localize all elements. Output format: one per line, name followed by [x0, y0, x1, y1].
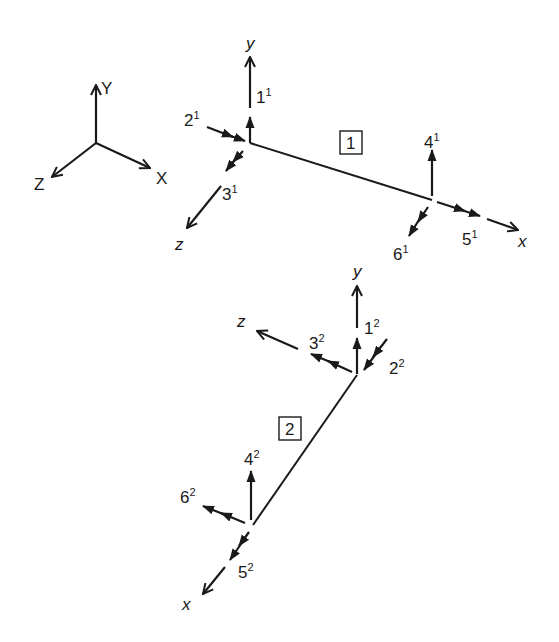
- dof-5-2-arrow-icon: [230, 532, 249, 560]
- dof-2-2-label: 22: [389, 357, 405, 378]
- dof-6-2-arrow-icon: [203, 506, 245, 523]
- global-x-axis-arrow-icon: [96, 143, 150, 168]
- dof-3-2-label: 32: [309, 332, 325, 353]
- element-1-local-z-label: z: [174, 235, 184, 254]
- element-2-local-z-label: z: [236, 312, 246, 331]
- global-y-label: Y: [101, 79, 112, 98]
- global-z-label: Z: [34, 175, 44, 194]
- element-1-local-x-label: x: [517, 232, 527, 251]
- dof-1-1-label: 11: [256, 86, 272, 107]
- dof-2-1-label: 21: [184, 109, 200, 130]
- global-z-axis-arrow-icon: [52, 143, 96, 177]
- global-x-label: X: [156, 169, 167, 188]
- dof-5-1-label: 51: [462, 228, 478, 249]
- element-2-local-z-axis-arrow-icon: [257, 331, 298, 349]
- dof-4-2-label: 42: [244, 448, 260, 469]
- element-1-local-z-axis-arrow-icon: [187, 186, 221, 228]
- dof-4-1-label: 41: [424, 131, 440, 152]
- element-1-local-y-label: y: [245, 34, 256, 53]
- element-2: [203, 286, 387, 594]
- dof-3-2-arrow-icon: [311, 354, 352, 372]
- dof-6-1-arrow-icon: [409, 207, 428, 236]
- dof-6-1-label: 61: [393, 243, 409, 264]
- element-2-local-y-label: y: [352, 262, 363, 281]
- element-2-local-x-label: x: [181, 595, 191, 614]
- element-1-id-label: 1: [346, 134, 355, 153]
- dof-5-2-label: 52: [238, 561, 254, 582]
- dof-3-1-arrow-icon: [226, 151, 243, 171]
- element-2-id-label: 2: [285, 420, 294, 439]
- dof-1-2-label: 12: [364, 317, 380, 338]
- element-2-local-x-axis-arrow-icon: [203, 567, 225, 594]
- global-axes: [52, 85, 150, 177]
- dof-6-2-label: 62: [180, 486, 196, 507]
- dof-diagram: Y X Z y 11 21 31 z 41 51 x 61 1 y 12 22 …: [0, 0, 559, 642]
- element-1-local-x-axis-arrow-icon: [487, 219, 518, 230]
- element-1-member-line: [250, 143, 432, 200]
- dof-3-1-label: 31: [222, 183, 238, 204]
- dof-2-2-arrow-icon: [364, 339, 387, 370]
- dof-2-1-arrow-icon: [207, 127, 245, 141]
- element-2-member-line: [253, 375, 357, 525]
- dof-5-1-arrow-icon: [437, 202, 480, 216]
